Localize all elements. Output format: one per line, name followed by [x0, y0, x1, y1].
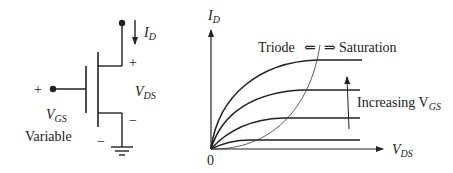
variable-label: Variable: [25, 129, 72, 144]
mosfet-circuit: ID + VDS − + VGS Variable −: [25, 20, 157, 155]
curve-vgs-4: [211, 60, 362, 149]
vgs-label: VGS: [46, 107, 67, 124]
right-arrow-icon: ⇒: [324, 40, 336, 55]
id-vds-graph: ID VDS 0 Triode ⇐ ⇒ Saturation Increasin…: [207, 8, 441, 168]
mosfet-diagram: ID + VDS − + VGS Variable − ID VDS 0 Tri…: [0, 0, 453, 173]
ground-icon: [111, 147, 133, 155]
left-arrow-icon: ⇐: [304, 40, 316, 55]
triode-label: Triode: [258, 40, 295, 55]
vds-plus-sign: +: [129, 55, 137, 70]
vds-minus-sign: −: [129, 113, 137, 128]
x-axis-label: VDS: [392, 142, 413, 159]
vgs-minus-sign: −: [97, 134, 105, 149]
origin-label: 0: [207, 153, 214, 168]
drain-current-label: ID: [143, 25, 157, 42]
increasing-vgs-label: Increasing VGS: [357, 95, 441, 112]
y-axis-label: ID: [207, 8, 221, 25]
gate-terminal-dot: [50, 86, 56, 92]
curve-vgs-2: [211, 118, 360, 149]
increasing-vgs-arrow: [347, 77, 349, 129]
vgs-plus-sign: +: [34, 82, 42, 97]
vds-label: VDS: [135, 84, 156, 101]
saturation-label: Saturation: [339, 40, 397, 55]
